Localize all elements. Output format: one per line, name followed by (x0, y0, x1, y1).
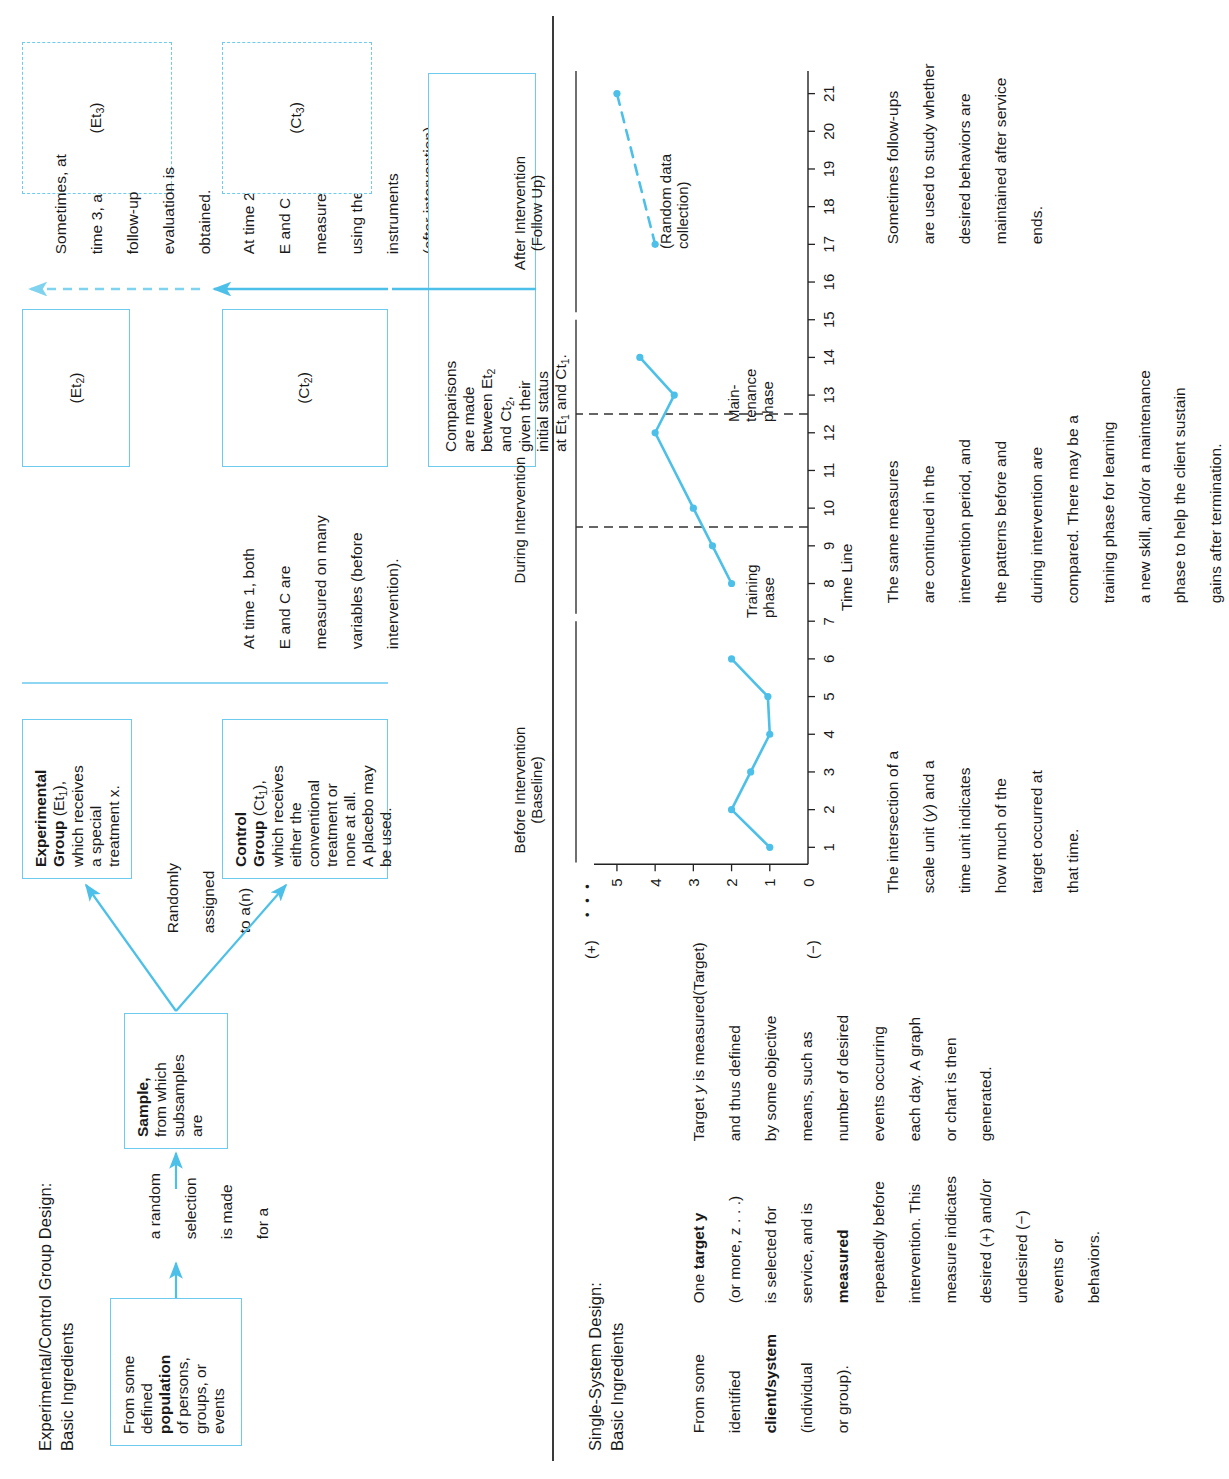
ct2-box-label: (Ct2) (295, 310, 314, 466)
et2-box: (Et2) (22, 309, 130, 467)
client-system-note: From some identified client/system (indi… (672, 1334, 870, 1451)
ct3-box: (Ct3) (222, 42, 372, 194)
chart-data-point (652, 429, 659, 436)
x-tick-label: 8 (820, 579, 837, 587)
phase-header-baseline: Before Intervention (Baseline) (512, 695, 546, 885)
y-axis-minus-symbol: (−) (804, 929, 821, 959)
x-tick-label: 5 (820, 692, 837, 700)
x-tick-label: 19 (820, 161, 837, 178)
y-tick-label: 3 (685, 878, 702, 886)
population-box: From some defined population of persons,… (110, 1298, 242, 1446)
target-y-note: One target y (or more, z . . .) is selec… (672, 1176, 1121, 1321)
y-tick-label: 2 (723, 878, 740, 886)
x-tick-label: 10 (820, 500, 837, 517)
chart-data-point (613, 90, 620, 97)
chart-data-point (766, 844, 773, 851)
bottom-section-title-line1: Single-System Design: (586, 1282, 605, 1451)
time1-vertical-rule (22, 682, 388, 684)
intervention-note: The same measures are continued in the i… (866, 370, 1229, 621)
comparisons-box-text: Comparisons are made between Et2 and Ct2… (442, 80, 571, 452)
x-tick-label: 3 (820, 768, 837, 776)
x-tick-label: 6 (820, 655, 837, 663)
et2-box-label: (Et2) (67, 310, 86, 466)
x-tick-label: 2 (820, 805, 837, 813)
x-tick-label: 15 (820, 311, 837, 328)
experimental-group-box: Experimental Group (Et1), which receives… (22, 719, 132, 879)
x-tick-label: 7 (820, 617, 837, 625)
chart-data-point (709, 542, 716, 549)
top-section-title-line2: Basic Ingredients (58, 1323, 77, 1451)
y-axis-title: (Target) (690, 909, 708, 1029)
top-section-title-line1: Experimental/Control Group Design: (36, 1183, 55, 1451)
chart-data-point (728, 806, 735, 813)
chart-data-point (690, 505, 697, 512)
chart-series-line (732, 659, 770, 847)
x-tick-label: 11 (820, 463, 837, 479)
x-tick-label: 21 (820, 85, 837, 102)
bottom-section-title-line2: Basic Ingredients (608, 1323, 627, 1451)
chart-data-point (671, 391, 678, 398)
chart-data-point (728, 580, 735, 587)
x-tick-label: 18 (820, 198, 837, 215)
chart-data-point (728, 655, 735, 662)
x-tick-label: 1 (820, 843, 837, 851)
time3-note: Sometimes, at time 3, a follow-up evalua… (34, 154, 232, 272)
phase-header-during: During Intervention (512, 405, 529, 635)
x-tick-label: 14 (820, 349, 837, 366)
ct3-box-label: (Ct3) (287, 43, 306, 193)
population-box-text: From some defined population of persons,… (120, 1305, 228, 1434)
x-tick-label: 13 (820, 387, 837, 404)
chart-data-point (766, 731, 773, 738)
chart-data-point (636, 354, 643, 361)
chart-plot: 123456789101112131415161718192021012345 (586, 31, 856, 911)
x-tick-label: 4 (820, 730, 837, 738)
time1-note: At time 1, both E and C are measured on … (222, 515, 420, 667)
x-tick-label: 20 (820, 123, 837, 140)
y-tick-label: 5 (608, 878, 625, 886)
chart-data-point (652, 241, 659, 248)
sample-box-text: Sample, from which subsamples are (134, 1020, 206, 1137)
chart-series-line (617, 94, 655, 245)
target-definition-note: Target y is measured and thus defined by… (672, 995, 1013, 1159)
ct2-box: (Ct2) (222, 309, 388, 467)
x-tick-label: 16 (820, 274, 837, 291)
intersection-note: The intersection of a scale unit (y) and… (866, 751, 1100, 911)
x-tick-label: 17 (820, 236, 837, 253)
chart-data-point (747, 768, 754, 775)
x-tick-label: 12 (820, 424, 837, 441)
chart-data-point (764, 693, 771, 700)
phase-header-after: After Intervention (Follow Up) (512, 103, 546, 323)
chart-series-line (640, 357, 732, 583)
random-selection-note: a random selection is made for a (128, 1173, 290, 1257)
y-tick-label: 1 (761, 878, 778, 886)
y-axis-plus-symbol: (+) (582, 929, 599, 959)
y-tick-label: 4 (647, 878, 664, 886)
y-tick-label: 0 (800, 878, 817, 886)
sample-box: Sample, from which subsamples are (124, 1013, 228, 1149)
control-group-box: Control Group (Ct1), which receives eith… (222, 719, 388, 879)
experimental-group-text: Experimental Group (Et1), which receives… (32, 726, 123, 867)
x-tick-label: 9 (820, 542, 837, 550)
followup-note: Sometimes follow-ups are used to study w… (866, 64, 1064, 263)
control-group-text: Control Group (Ct1), which receives eith… (232, 726, 395, 867)
single-system-chart: (+) • • • (−) (Target) Time Line Before … (586, 31, 856, 911)
